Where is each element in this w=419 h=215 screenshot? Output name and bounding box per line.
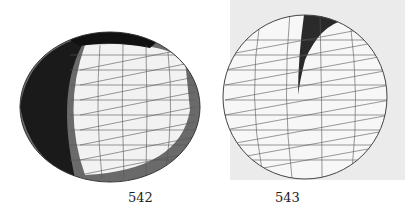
- figure-543-caption: 543: [275, 190, 300, 205]
- figure-canvas: [0, 0, 419, 215]
- figure-542-caption: 542: [128, 190, 153, 205]
- figure-542-sphere: [20, 30, 200, 182]
